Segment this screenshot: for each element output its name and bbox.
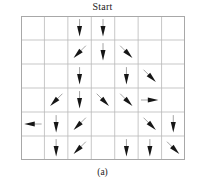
vector-field-grid (21, 16, 185, 160)
grid-panel (21, 16, 185, 160)
start-label: Start (0, 1, 205, 13)
figure-caption: (a) (0, 166, 205, 178)
figure-container: Start (a) (0, 0, 205, 182)
